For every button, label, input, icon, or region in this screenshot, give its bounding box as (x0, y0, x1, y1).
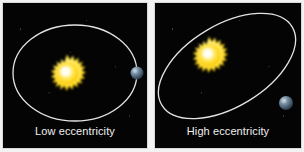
caption-high-eccentricity: High eccentricity (155, 125, 301, 138)
sun-icon (193, 36, 228, 73)
orbit-path (155, 3, 301, 140)
panel-high-eccentricity: High eccentricity (154, 2, 302, 149)
panel-low-eccentricity: Low eccentricity (2, 2, 148, 149)
sun-icon (51, 54, 86, 91)
planet-icon (279, 96, 293, 110)
caption-low-eccentricity: Low eccentricity (3, 125, 147, 138)
eccentricity-comparison-figure: Low eccentricity (0, 0, 304, 152)
planet-icon (131, 67, 144, 80)
